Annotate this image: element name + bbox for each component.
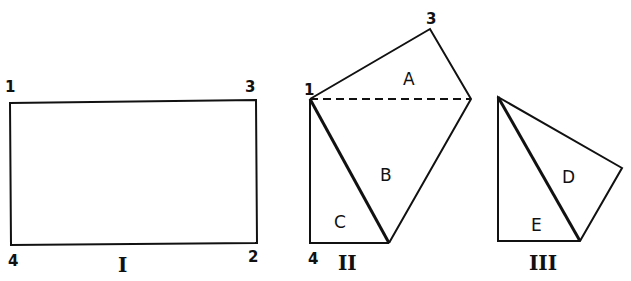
corner-label-1: 1 xyxy=(5,78,15,96)
region-label-b: B xyxy=(380,165,392,185)
figure-i: 1 3 2 4 I xyxy=(5,78,258,277)
vertex-label-1: 1 xyxy=(304,81,314,99)
region-label-e: E xyxy=(531,215,542,235)
region-label-a: A xyxy=(403,69,415,89)
vertex-label-4: 4 xyxy=(308,250,318,268)
diagonal-fold xyxy=(310,99,389,243)
figure-caption-ii: II xyxy=(338,251,357,275)
rectangle xyxy=(10,100,257,245)
fold-outline xyxy=(310,29,471,243)
figure-iii: D E III xyxy=(498,97,622,275)
corner-label-3: 3 xyxy=(245,78,255,96)
folded-shape xyxy=(498,97,622,241)
folding-diagram: 1 3 2 4 I 3 1 4 A B C II D E III xyxy=(0,0,631,281)
figure-caption-i: I xyxy=(118,253,127,277)
corner-label-2: 2 xyxy=(248,248,258,266)
region-label-d: D xyxy=(562,167,575,187)
corner-label-4: 4 xyxy=(8,252,18,270)
vertex-label-3: 3 xyxy=(426,10,436,28)
figure-caption-iii: III xyxy=(529,251,557,275)
figure-ii: 3 1 4 A B C II xyxy=(304,10,471,275)
region-label-c: C xyxy=(334,212,346,232)
